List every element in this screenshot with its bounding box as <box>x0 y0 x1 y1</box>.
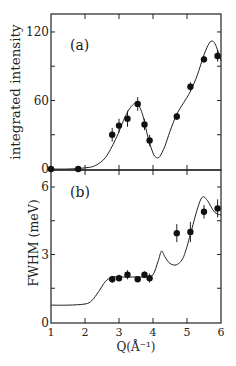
data-point <box>201 56 207 62</box>
panel-b-y-tick-labels: 0 3 6 <box>41 180 49 330</box>
y-tick-label: 6 <box>41 180 49 194</box>
panel-a-y-tick-labels: 0 60 120 <box>26 25 49 176</box>
data-point <box>124 272 130 278</box>
x-tick-label: 2 <box>82 326 89 339</box>
fit-curve <box>51 197 221 306</box>
y-tick-label: 0 <box>41 162 49 176</box>
x-tick-label: 3 <box>116 326 123 339</box>
panel-b-label: (b) <box>70 184 90 200</box>
panel-a-ylabel: integrated intensity <box>7 24 23 160</box>
data-point <box>174 113 180 119</box>
x-axis-label: Q(Å⁻¹) <box>116 339 155 354</box>
x-tick-label: 1 <box>48 326 55 339</box>
data-point <box>135 276 141 282</box>
x-tick-label: 5 <box>184 326 191 339</box>
data-point <box>201 209 207 215</box>
data-point <box>214 53 220 59</box>
panel-a-label: (a) <box>70 37 89 53</box>
data-point <box>141 121 147 127</box>
panel-b-data-points <box>109 199 221 282</box>
data-point <box>214 205 220 211</box>
panel-b-fit-curve <box>51 197 221 306</box>
data-point <box>109 132 115 138</box>
panel-b-ylabel: FWHM (meV) <box>26 199 41 286</box>
data-point <box>187 84 193 90</box>
data-point <box>187 229 193 235</box>
data-point <box>135 101 141 107</box>
y-tick-label: 60 <box>34 94 49 108</box>
panel-a-data-points <box>48 50 221 172</box>
data-point <box>124 116 130 122</box>
data-point <box>109 276 115 282</box>
x-tick-label: 4 <box>150 326 157 339</box>
data-point <box>146 137 152 143</box>
y-tick-label: 3 <box>41 248 49 262</box>
data-point <box>75 166 81 172</box>
y-tick-label: 120 <box>26 25 49 39</box>
data-point <box>116 275 122 281</box>
x-tick-label: 6 <box>218 326 225 339</box>
data-point <box>174 230 180 236</box>
x-tick-labels: 1 2 3 4 5 6 <box>48 326 225 339</box>
chart-figure: (a) (b) integrated intensity FWHM (meV) … <box>0 0 236 366</box>
data-point <box>146 275 152 281</box>
data-point <box>116 122 122 128</box>
